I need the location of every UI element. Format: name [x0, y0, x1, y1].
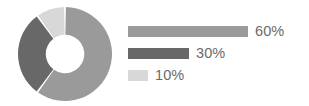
donut-chart	[17, 6, 113, 102]
legend-bar-10	[128, 70, 148, 81]
legend-label-60: 60%	[255, 24, 284, 39]
legend-item-10[interactable]: 10%	[128, 64, 184, 86]
legend-item-60[interactable]: 60%	[128, 20, 284, 42]
donut-slices	[18, 7, 112, 101]
legend-bar-60	[128, 26, 248, 37]
legend-label-30: 30%	[196, 46, 225, 61]
donut-chart-infographic: 60% 30% 10%	[0, 0, 309, 106]
legend-bar-30	[128, 48, 189, 59]
legend: 60% 30% 10%	[128, 20, 309, 90]
legend-label-10: 10%	[155, 68, 184, 83]
legend-item-30[interactable]: 30%	[128, 42, 225, 64]
